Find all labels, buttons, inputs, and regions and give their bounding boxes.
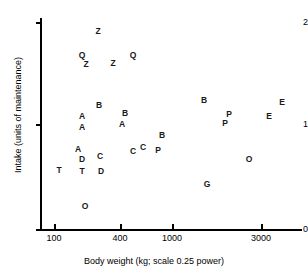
y-tick-mark [36, 22, 42, 24]
data-point-label: Q [128, 51, 138, 60]
x-tick-label: 3000 [241, 234, 281, 243]
y-tick-label: 0 [280, 225, 308, 234]
scatter-plot-figure: 012 10040010003000 ZQZZQBBAAAADTTCDOCCPB… [0, 0, 308, 277]
data-point-label: A [77, 112, 87, 121]
data-point-label: T [54, 166, 64, 175]
x-tick-label: 100 [34, 234, 74, 243]
x-axis-title: Body weight (kg; scale 0.25 power) [0, 256, 308, 266]
plot-area: 012 10040010003000 ZQZZQBBAAAADTTCDOCCPB… [0, 0, 308, 277]
y-tick-mark [36, 124, 42, 126]
data-point-label: E [264, 112, 274, 121]
data-point-label: Z [93, 27, 103, 36]
data-point-label: O [244, 155, 254, 164]
data-point-label: A [77, 123, 87, 132]
data-point-label: Z [108, 59, 118, 68]
y-tick-label: 2 [280, 18, 308, 27]
x-tick-mark [54, 224, 56, 230]
y-tick-label: 1 [280, 120, 308, 129]
data-point-label: T [77, 167, 87, 176]
data-point-label: D [77, 155, 87, 164]
data-point-label: C [138, 143, 148, 152]
data-point-label: B [94, 101, 104, 110]
x-tick-mark [120, 224, 122, 230]
data-point-label: D [96, 167, 106, 176]
data-point-label: C [95, 152, 105, 161]
x-tick-label: 400 [100, 234, 140, 243]
x-tick-mark [172, 224, 174, 230]
data-point-label: G [202, 180, 212, 189]
data-point-label: E [277, 98, 287, 107]
data-point-label: O [80, 202, 90, 211]
data-point-label: C [128, 147, 138, 156]
data-point-label: B [157, 131, 167, 140]
x-tick-label: 1000 [152, 234, 192, 243]
data-point-label: P [153, 146, 163, 155]
x-tick-mark [261, 224, 263, 230]
data-point-label: B [199, 96, 209, 105]
data-point-label: B [120, 109, 130, 118]
x-axis-line [40, 229, 302, 231]
y-tick-mark [36, 229, 42, 231]
data-point-label: A [73, 145, 83, 154]
data-point-label: A [117, 120, 127, 129]
data-point-label: P [220, 119, 230, 128]
data-point-label: Z [81, 60, 91, 69]
y-axis-title: Intake (units of maintenance) [13, 35, 23, 195]
